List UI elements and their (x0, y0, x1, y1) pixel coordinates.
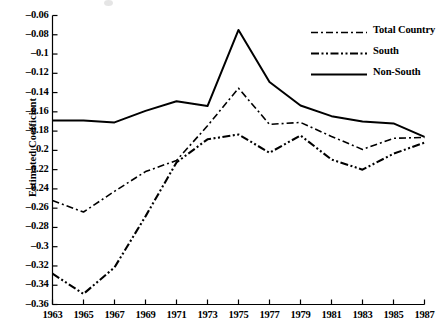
y-tick-label: –0.2 (31, 143, 49, 154)
legend-label: Total Country (373, 24, 435, 35)
y-tick-label: –0.26 (26, 201, 49, 212)
y-tick-label: –0.1 (31, 47, 49, 58)
y-tick-label: –0.14 (26, 86, 49, 97)
y-tick-label: –0.24 (26, 182, 49, 193)
series-line-south (53, 134, 425, 293)
y-tick-label: –0.34 (26, 278, 49, 289)
data-series-group (53, 30, 425, 294)
legend-swatch-dash-dot-icon (311, 30, 367, 35)
legend-label: South (373, 45, 399, 56)
axis-ticks (53, 16, 425, 305)
y-tick-label: –0.08 (26, 28, 49, 39)
legend-swatch-dash-dot-dot-icon (311, 51, 367, 56)
series-line-non-south (53, 30, 425, 137)
y-tick-label: –0.06 (26, 9, 49, 20)
y-tick-label: –0.36 (26, 298, 49, 309)
legend-swatch-solid-icon (311, 72, 367, 77)
axis-lines (53, 16, 425, 305)
scan-artifact (104, 0, 113, 6)
y-tick-label: –0.28 (26, 220, 49, 231)
y-tick-label: –0.32 (26, 259, 49, 270)
y-tick-label: –0.16 (26, 105, 49, 116)
y-tick-label: –0.18 (26, 124, 49, 135)
y-tick-label: –0.3 (31, 240, 49, 251)
y-tick-label: –0.12 (26, 66, 49, 77)
x-tick-label: 1987 (403, 309, 440, 320)
series-line-total-country (53, 88, 425, 212)
legend-label: Non-South (373, 66, 421, 77)
y-tick-label: –0.22 (26, 163, 49, 174)
